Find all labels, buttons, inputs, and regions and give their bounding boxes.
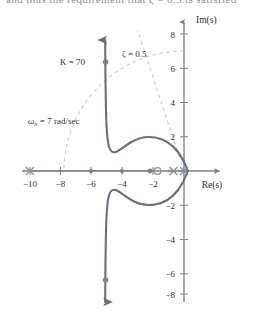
root-locus-svg: −10 −8 −6 −4 −2 8 6 4 2 −2 −4 −6 −8	[0, 0, 255, 313]
y-tick-label-8: 8	[171, 30, 176, 40]
y-tick-label-minus2: −2	[165, 201, 175, 211]
imaginary-axis-label: Im(s)	[196, 15, 217, 26]
gain-annotation: K = 70	[60, 57, 86, 67]
x-axis-tick-labels: −10 −8 −6 −4 −2	[23, 179, 158, 189]
omega-n-guide-arc	[64, 51, 184, 171]
y-tick-label-4: 4	[171, 98, 176, 108]
locus-upper-branch	[105, 40, 188, 171]
x-tick-label-minus6: −6	[86, 179, 96, 189]
axes-group	[22, 22, 219, 302]
omega-value: = 7 rad/sec	[38, 116, 80, 126]
y-tick-label-6: 6	[171, 64, 176, 74]
gain-marker-upper	[103, 59, 108, 64]
y-tick-label-2: 2	[171, 132, 176, 142]
y-tick-label-minus8: −8	[165, 290, 175, 300]
y-axis-tick-labels: 8 6 4 2 −2 −4 −6 −8	[165, 30, 175, 300]
breakaway-dot-minus4	[120, 169, 124, 173]
x-tick-label-minus2: −2	[148, 179, 158, 189]
x-tick-label-minus4: −4	[117, 179, 127, 189]
breakaway-dot-minus2p2	[148, 169, 153, 174]
y-tick-label-minus6: −6	[165, 269, 175, 279]
real-axis-label: Re(s)	[202, 180, 223, 191]
x-tick-label-minus10: −10	[23, 179, 38, 189]
locus-lower-branch	[105, 171, 188, 302]
breakaway-dot-minus6	[89, 169, 93, 173]
root-locus-figure: and thus the requirement that ζ = 0.5 is…	[0, 0, 255, 313]
svg-text:ωn = 7 rad/sec: ωn = 7 rad/sec	[28, 116, 79, 127]
gain-marker-lower	[103, 277, 108, 282]
y-tick-label-minus4: −4	[165, 235, 175, 245]
x-tick-label-minus8: −8	[56, 179, 66, 189]
natural-frequency-annotation: ωn = 7 rad/sec	[28, 116, 79, 127]
damping-ratio-annotation: ζ = 0.5	[122, 49, 147, 59]
